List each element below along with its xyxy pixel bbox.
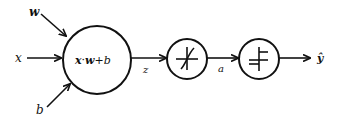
linear-node-label: x·w+b xyxy=(74,54,111,67)
arrow-b-to-linear xyxy=(47,84,70,107)
edge-label-z: z xyxy=(142,64,149,75)
output-label-y-hat: ŷ xyxy=(316,52,325,65)
neuron-diagram: w x b x·w+b z a ŷ xyxy=(0,0,341,123)
input-label-w: w xyxy=(29,5,40,19)
arrow-w-to-linear xyxy=(41,14,66,36)
edge-label-a: a xyxy=(218,63,224,74)
input-label-b: b xyxy=(36,103,44,117)
input-label-x: x xyxy=(15,51,22,65)
